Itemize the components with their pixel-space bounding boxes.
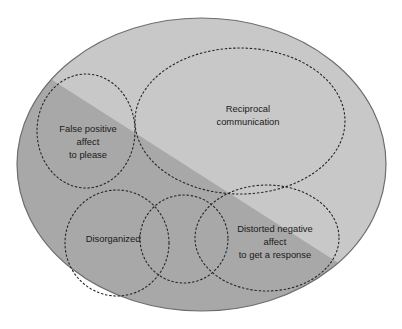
label-line: False positive	[59, 123, 116, 134]
label-line: to get a response	[239, 249, 311, 260]
label-disorganized: Disorganized	[86, 233, 141, 244]
label-line: Reciprocal	[226, 103, 270, 114]
venn-diagram: Reciprocal communication False positive …	[0, 0, 402, 329]
label-line: Disorganized	[86, 233, 141, 244]
label-line: affect	[77, 136, 100, 147]
label-line: communication	[216, 116, 279, 127]
label-line: to please	[69, 149, 107, 160]
label-line: affect	[264, 236, 287, 247]
venn-diagram-canvas: Reciprocal communication False positive …	[0, 0, 402, 329]
label-line: Distorted negative	[237, 223, 313, 234]
